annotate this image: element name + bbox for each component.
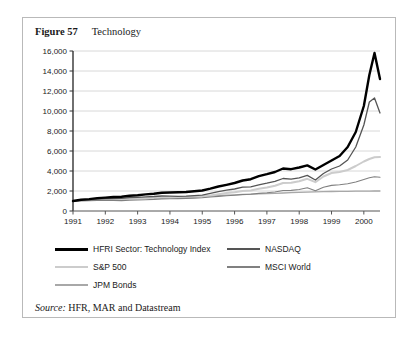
legend-item-label: JPM Bonds — [93, 281, 136, 290]
figure-number: Figure 57 — [35, 26, 78, 37]
legend-item: HFRI Sector: Technology Index — [55, 240, 235, 258]
x-tick-label: 1991 — [64, 217, 82, 226]
x-tick-label: 1999 — [323, 217, 341, 226]
x-tick-label: 1995 — [193, 217, 211, 226]
line-chart: 16,00014,00012,00010,0008,0006,0004,0002… — [33, 45, 385, 233]
x-tick-label: 1996 — [226, 217, 244, 226]
source-note: Source: HFR, MAR and Datastream — [35, 302, 180, 313]
legend-item: MSCI World — [227, 258, 377, 276]
y-tick-label: 6,000 — [47, 147, 68, 156]
figure-title: Figure 57Technology — [35, 26, 141, 37]
x-tick-label: 1998 — [290, 217, 308, 226]
legend-item: S&P 500 — [55, 258, 235, 276]
legend-swatch-icon — [227, 248, 260, 250]
figure-container: Figure 57Technology 16,00014,00012,00010… — [22, 17, 396, 318]
legend-item: NASDAQ — [227, 240, 377, 258]
legend-item-label: HFRI Sector: Technology Index — [93, 245, 211, 254]
y-tick-label: 2,000 — [47, 187, 68, 196]
series-line — [73, 157, 380, 201]
legend-swatch-icon — [55, 284, 88, 286]
legend-item-label: NASDAQ — [265, 245, 301, 254]
chart-svg: 16,00014,00012,00010,0008,0006,0004,0002… — [33, 45, 385, 233]
legend-item-label: S&P 500 — [93, 263, 126, 272]
x-tick-label: 1997 — [258, 217, 276, 226]
chart-legend: HFRI Sector: Technology IndexS&P 500JPM … — [55, 240, 385, 294]
y-tick-label: 0 — [63, 207, 68, 216]
y-tick-label: 12,000 — [43, 87, 68, 96]
x-tick-label: 1993 — [129, 217, 147, 226]
y-tick-label: 16,000 — [43, 47, 68, 56]
legend-item: JPM Bonds — [55, 276, 235, 294]
legend-item-label: MSCI World — [265, 263, 311, 272]
legend-swatch-icon — [227, 266, 260, 268]
y-tick-label: 10,000 — [43, 107, 68, 116]
y-tick-label: 14,000 — [43, 67, 68, 76]
legend-column-right: NASDAQMSCI World — [227, 240, 377, 276]
series-line — [73, 53, 380, 201]
legend-column-left: HFRI Sector: Technology IndexS&P 500JPM … — [55, 240, 235, 294]
legend-swatch-icon — [55, 266, 88, 268]
figure-name: Technology — [92, 26, 141, 37]
y-tick-label: 4,000 — [47, 167, 68, 176]
x-tick-label: 2000 — [355, 217, 373, 226]
source-keyword: Source: — [35, 302, 66, 313]
legend-swatch-icon — [55, 248, 88, 251]
y-tick-label: 8,000 — [47, 127, 68, 136]
x-tick-label: 1992 — [96, 217, 114, 226]
x-tick-label: 1994 — [161, 217, 179, 226]
source-text: HFR, MAR and Datastream — [68, 302, 180, 313]
